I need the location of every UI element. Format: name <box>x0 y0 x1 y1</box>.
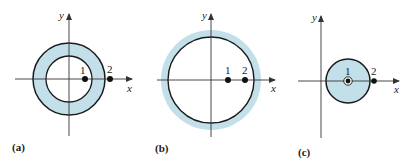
point-1-label: 1 <box>80 64 86 76</box>
diagram-canvas: x y 1 2 (a) x y 1 2 (b) x y 1 2 (c) <box>0 0 412 162</box>
x-axis-label: x <box>393 83 399 95</box>
point-2 <box>107 76 113 82</box>
point-2-label: 2 <box>242 64 248 76</box>
y-axis-label: y <box>201 9 207 21</box>
point-1-label: 1 <box>225 64 231 76</box>
point-1-label: 1 <box>345 65 351 77</box>
x-axis-label: x <box>126 82 132 94</box>
point-2-label: 2 <box>371 65 377 77</box>
panel-label: (b) <box>155 142 169 155</box>
panel-b: x y 1 2 (b) <box>155 9 276 155</box>
point-2-label: 2 <box>107 63 113 75</box>
point-2 <box>371 78 377 84</box>
point-1 <box>346 79 351 84</box>
point-1 <box>225 77 231 83</box>
panel-c: x y 1 2 (c) <box>298 11 399 159</box>
y-axis-label: y <box>58 9 64 21</box>
x-axis-label: x <box>270 82 276 94</box>
point-1 <box>82 76 88 82</box>
panel-a: x y 1 2 (a) <box>12 9 132 154</box>
panel-label: (c) <box>298 146 311 159</box>
point-2 <box>242 77 248 83</box>
panel-label: (a) <box>12 141 25 154</box>
y-axis-label: y <box>311 11 317 23</box>
